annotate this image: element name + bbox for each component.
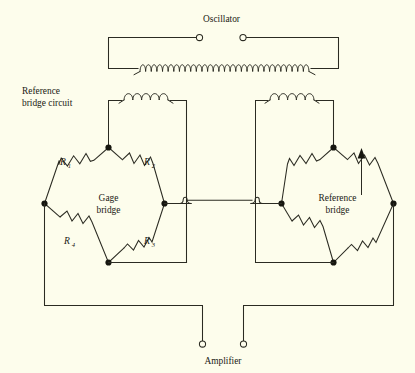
gage-resistor-label-r4: R 4 bbox=[63, 235, 76, 248]
detector-crossover-line bbox=[180, 197, 263, 203]
gage-bridge-label-line2: bridge bbox=[97, 205, 121, 215]
secondary-right-circuit bbox=[256, 101, 334, 263]
reference-bridge-label-line1: Reference bbox=[319, 193, 357, 203]
terminal-group bbox=[196, 34, 246, 347]
gage-node-top bbox=[105, 144, 111, 150]
oscillator-left-terminal[interactable] bbox=[196, 34, 202, 40]
amplifier-right-terminal[interactable] bbox=[240, 341, 246, 347]
transformer-secondary-right-coil bbox=[265, 94, 319, 104]
oscillator-right-terminal[interactable] bbox=[240, 34, 246, 40]
gage-r3-lead-bottom bbox=[109, 248, 125, 263]
ref-top-left-resistor-body bbox=[282, 154, 321, 204]
secondary-left-lead-out bbox=[170, 101, 187, 263]
reference-bridge-network bbox=[244, 144, 397, 341]
r3-letter: R bbox=[143, 235, 150, 246]
transformer-secondary-left-coil bbox=[119, 94, 173, 104]
amplifier-label: Amplifier bbox=[205, 356, 243, 366]
adjust-arrow-head bbox=[358, 148, 366, 158]
r2-letter: R bbox=[143, 156, 150, 167]
r1-subscript: 1 bbox=[68, 162, 71, 169]
coil-winding bbox=[140, 65, 309, 72]
r2-subscript: 2 bbox=[152, 162, 156, 169]
circuit-schematic-svg: Oscillator Amplifier Reference bridge ci… bbox=[0, 0, 415, 373]
ref-bottom-left-resistor-body bbox=[292, 215, 334, 263]
coil-winding bbox=[270, 94, 314, 100]
primary-coil-loops bbox=[134, 65, 315, 75]
gage-left-to-amplifier-wire bbox=[45, 204, 203, 342]
r4-letter: R bbox=[63, 235, 70, 246]
gage-resistor-label-r2: R 2 bbox=[143, 156, 156, 169]
amplifier-left-terminal[interactable] bbox=[199, 341, 205, 347]
wire-hop-right bbox=[251, 197, 263, 203]
circuit-diagram-figure: Oscillator Amplifier Reference bridge ci… bbox=[0, 0, 415, 373]
gage-resistor-label-r1: R 1 bbox=[59, 156, 71, 169]
oscillator-label: Oscillator bbox=[203, 14, 241, 24]
ref-right-to-amplifier-wire bbox=[244, 204, 394, 342]
r3-subscript: 3 bbox=[151, 241, 156, 248]
r1-letter: R bbox=[59, 156, 66, 167]
reference-bridge-label-line2: bridge bbox=[326, 205, 350, 215]
ref-bottom-right-resistor-body bbox=[348, 204, 394, 251]
coil-lead-right bbox=[309, 72, 315, 75]
ref-node-top bbox=[330, 144, 336, 150]
oscillator-right-lead bbox=[244, 38, 339, 69]
reference-bridge-circuit-label-line1: Reference bbox=[22, 86, 60, 96]
coil-lead-left bbox=[134, 72, 140, 75]
r4-subscript: 4 bbox=[72, 241, 76, 248]
secondary-right-lead-out bbox=[316, 101, 334, 148]
reference-bridge-circuit-label-line2: bridge circuit bbox=[22, 98, 73, 108]
oscillator-left-lead bbox=[109, 38, 198, 69]
oscillator-primary-circuit bbox=[109, 38, 339, 69]
coil-winding bbox=[124, 94, 168, 100]
gage-bridge-label-line1: Gage bbox=[99, 193, 119, 203]
